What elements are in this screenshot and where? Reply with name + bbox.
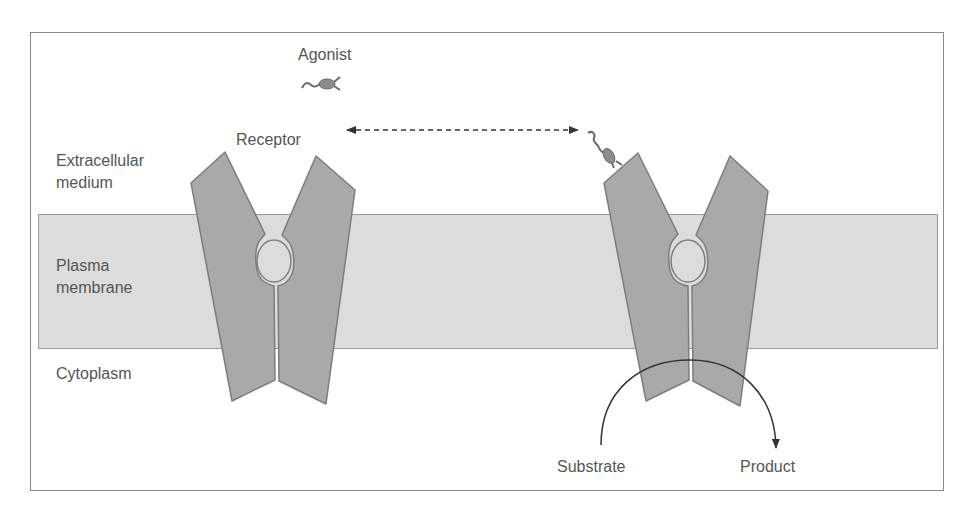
cytoplasm-label: Cytoplasm <box>56 363 132 385</box>
receptor-label: Receptor <box>236 129 301 151</box>
product-label: Product <box>740 456 795 478</box>
receptor-right-subunit <box>278 156 355 404</box>
agonist-label: Agonist <box>298 44 351 66</box>
agonist-molecule-free <box>302 77 340 90</box>
extracellular-medium-label: Extracellular medium <box>56 150 144 194</box>
receptor-inactive <box>191 152 355 404</box>
receptor-active <box>604 153 768 406</box>
agonist-molecule-bound <box>588 132 622 168</box>
binding-pocket <box>671 240 705 282</box>
substrate-label: Substrate <box>557 456 625 478</box>
receptor-diagram-graphic <box>0 0 971 519</box>
plasma-membrane-label: Plasma membrane <box>56 255 132 299</box>
binding-pocket <box>257 240 291 282</box>
